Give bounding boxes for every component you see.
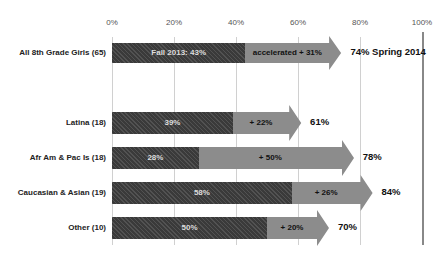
- gridline: [360, 37, 361, 245]
- baseline-value-label: 39%: [112, 118, 233, 127]
- category-label: Caucasian & Asian (19): [18, 188, 106, 197]
- x-tick-label: 20%: [166, 18, 182, 27]
- axis-line-100: [422, 32, 424, 245]
- baseline-value-label: Fall 2013: 43%: [112, 48, 245, 57]
- baseline-value-label: 28%: [112, 153, 199, 162]
- gain-value-label: + 20%: [267, 223, 317, 232]
- category-label: Other (10): [68, 223, 106, 232]
- gridline: [112, 37, 113, 245]
- gain-value-label: + 26%: [292, 188, 361, 197]
- baseline-value-label: 58%: [112, 188, 292, 197]
- x-tick-label: 60%: [290, 18, 306, 27]
- x-tick-label: 100%: [412, 18, 432, 27]
- gain-value-label: + 22%: [233, 118, 289, 127]
- gain-value-label: + 50%: [199, 153, 342, 162]
- category-label: Latina (18): [66, 118, 106, 127]
- total-value-label: 78%: [363, 151, 382, 162]
- gridline: [174, 37, 175, 245]
- baseline-value-label: 50%: [112, 223, 267, 232]
- total-value-label: 61%: [310, 116, 329, 127]
- gain-value-label: accelerated + 31%: [245, 48, 329, 57]
- total-value-label: 84%: [381, 186, 400, 197]
- total-value-label: 70%: [338, 221, 357, 232]
- x-tick-label: 40%: [228, 18, 244, 27]
- category-label: Afr Am & Pac Is (18): [30, 153, 106, 162]
- category-label: All 8th Grade Girls (65): [19, 48, 106, 57]
- x-tick-label: 0%: [106, 18, 118, 27]
- x-tick-label: 80%: [352, 18, 368, 27]
- total-value-label: 74% Spring 2014: [350, 46, 426, 57]
